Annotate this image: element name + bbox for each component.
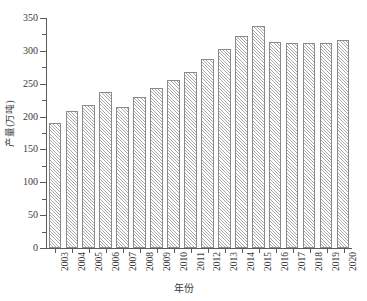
bar [201,59,214,248]
x-axis-tick [140,249,141,253]
bar [269,42,282,248]
y-axis-tick-label: 100 [4,177,38,187]
x-axis-tick [157,249,158,253]
x-axis-tick-label: 2006 [111,252,121,286]
x-axis-tick-label: 2013 [229,252,239,286]
bar [82,105,95,248]
x-axis-tick [259,249,260,253]
y-axis-tick [40,117,47,118]
y-axis-tick [40,248,47,249]
x-axis-tick [225,249,226,253]
x-axis-tick-label: 2008 [145,252,155,286]
x-axis-tick-label: 2011 [196,252,206,286]
x-axis-tick [72,249,73,253]
x-axis-tick-label: 2004 [77,252,87,286]
x-axis-tick-label: 2019 [331,252,341,286]
x-axis-tick [123,249,124,253]
y-axis-tick [40,18,47,19]
x-axis-tick [106,249,107,253]
x-axis-tick [327,249,328,253]
y-axis-tick [40,215,47,216]
x-axis-tick-label: 2017 [297,252,307,286]
x-axis-tick [191,249,192,253]
x-axis-tick-label: 2012 [212,252,222,286]
y-axis-tick [40,149,47,150]
y-axis-tick [40,51,47,52]
y-axis-tick-label: 300 [4,46,38,56]
bar-chart: 050100150200250300350 产量(万吨) 20032004200… [0,0,367,301]
bar [320,43,333,248]
y-axis-tick-label: 0 [4,243,38,253]
bar-series [47,18,352,248]
x-axis-tick [310,249,311,253]
bar [150,88,163,248]
x-axis-title: 年份 [0,283,367,295]
x-axis-tick-label: 2018 [314,252,324,286]
bar [167,80,180,248]
x-axis-tick-label: 2015 [263,252,273,286]
x-axis-tick-label: 2020 [348,252,358,286]
bar [235,36,248,248]
bar [252,26,265,248]
y-axis-tick [40,84,47,85]
bar [99,92,112,248]
bar [66,111,79,248]
x-axis-tick-label: 2007 [128,252,138,286]
x-axis-tick [276,249,277,253]
x-axis-tick-label: 2014 [246,252,256,286]
x-axis-tick [242,249,243,253]
y-axis-tick [40,182,47,183]
x-axis-tick [89,249,90,253]
y-axis-tick-label: 50 [4,210,38,220]
x-axis-tick [208,249,209,253]
x-axis-tick [174,249,175,253]
bar [116,107,129,248]
bar [184,72,197,248]
x-axis-tick-label: 2005 [94,252,104,286]
bar [133,97,146,248]
y-axis-tick-label: 350 [4,13,38,23]
x-axis-tick-label: 2010 [179,252,189,286]
x-axis-tick [344,249,345,253]
x-axis-tick [293,249,294,253]
bar [49,123,62,248]
x-axis-tick-label: 2003 [60,252,70,286]
bar [337,40,350,248]
bar [303,43,316,248]
y-axis-title: 产量(万吨) [5,76,16,172]
x-axis-tick-label: 2016 [280,252,290,286]
x-axis-tick [55,249,56,253]
x-axis-tick-label: 2009 [162,252,172,286]
bar [286,43,299,248]
bar [218,49,231,248]
